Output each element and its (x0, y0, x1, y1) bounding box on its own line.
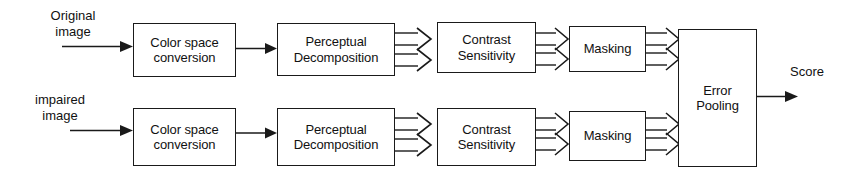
arrow-bottom-contrast-to-masking-lower (536, 133, 568, 155)
node-top-perceptual-decomposition[interactable]: Perceptual Decomposition (277, 23, 395, 76)
arrow-bottom-masking-to-error-pooling-lower (646, 133, 679, 155)
arrow-bottom-contrast-to-masking-upper (536, 113, 568, 135)
output-label-score: Score (790, 64, 824, 79)
arrow-error-pooling-to-score (757, 91, 798, 102)
arrow-top-contrast-to-masking-upper (536, 28, 568, 50)
arrow-top-masking-to-error-pooling-lower (646, 48, 679, 70)
arrow-top-masking-to-error-pooling-upper (646, 28, 679, 50)
node-bottom-color-space-conversion[interactable]: Color space conversion (133, 108, 236, 166)
arrow-original-to-color-space (62, 41, 133, 52)
input-label-impaired-image: impaired image (22, 92, 98, 123)
node-top-color-space-conversion[interactable]: Color space conversion (133, 23, 236, 77)
node-top-contrast-sensitivity[interactable]: Contrast Sensitivity (437, 22, 536, 73)
diagram-canvas: Original image impaired image Color spac… (0, 0, 859, 183)
arrow-bottom-masking-to-error-pooling-upper (646, 113, 679, 135)
input-label-original-image: Original image (38, 8, 108, 39)
node-bottom-contrast-sensitivity[interactable]: Contrast Sensitivity (437, 108, 536, 166)
arrow-bottom-perceptual-to-contrast-lower (395, 134, 431, 156)
node-error-pooling[interactable]: Error Pooling (678, 29, 757, 167)
node-bottom-masking[interactable]: Masking (569, 111, 646, 161)
node-top-masking[interactable]: Masking (569, 26, 646, 72)
arrow-top-perceptual-to-contrast-lower (395, 49, 431, 71)
arrow-top-color-space-to-perceptual (236, 43, 277, 54)
arrow-top-perceptual-to-contrast-upper (395, 28, 431, 50)
node-bottom-perceptual-decomposition[interactable]: Perceptual Decomposition (277, 108, 395, 166)
arrow-bottom-perceptual-to-contrast-upper (395, 113, 431, 135)
arrow-top-contrast-to-masking-lower (536, 48, 568, 70)
arrow-bottom-color-space-to-perceptual (236, 128, 277, 139)
arrow-impaired-to-color-space (70, 125, 133, 136)
